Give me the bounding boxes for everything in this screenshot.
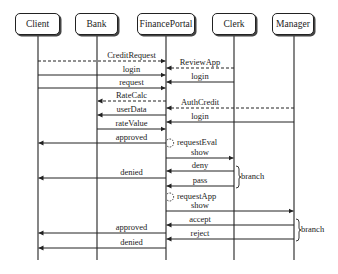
message-label: deny bbox=[192, 161, 209, 170]
message-label: login bbox=[191, 112, 208, 121]
message-label: AuthCredit bbox=[181, 98, 219, 107]
actor-bank: Bank bbox=[75, 13, 118, 35]
self-call-icon bbox=[167, 193, 174, 201]
message-label: show bbox=[191, 201, 209, 210]
message-label: userData bbox=[116, 105, 146, 114]
message-label: reject bbox=[191, 229, 210, 238]
self-call-icon bbox=[167, 139, 174, 147]
branch-label: branch bbox=[301, 225, 324, 234]
message-label: show bbox=[191, 148, 209, 157]
message-label: ReviewApp bbox=[180, 58, 221, 67]
diagram-canvas bbox=[0, 0, 338, 274]
message-label: approved bbox=[116, 223, 148, 232]
message-label: login bbox=[123, 65, 140, 74]
message-label: denied bbox=[120, 238, 143, 247]
message-label: accept bbox=[189, 215, 211, 224]
message-label: login bbox=[191, 72, 208, 81]
message-label: approved bbox=[116, 133, 148, 142]
self-call-label: requestEval bbox=[177, 138, 217, 147]
message-label: CreditRequest bbox=[107, 51, 156, 60]
message-label: rateValue bbox=[115, 119, 147, 128]
message-label: RateCalc bbox=[116, 91, 147, 100]
message-label: request bbox=[119, 78, 144, 87]
self-call-label: requestApp bbox=[177, 192, 216, 201]
actor-financeportal: FinancePortal bbox=[137, 13, 195, 35]
actor-clerk: Clerk bbox=[212, 13, 256, 35]
sequence-diagram: ClientBankFinancePortalClerkManager Cred… bbox=[0, 0, 338, 274]
branch-label: branch bbox=[241, 172, 264, 181]
message-label: pass bbox=[193, 176, 208, 185]
actor-client: Client bbox=[15, 13, 60, 35]
message-label: denied bbox=[120, 168, 143, 177]
actor-manager: Manager bbox=[272, 13, 314, 35]
